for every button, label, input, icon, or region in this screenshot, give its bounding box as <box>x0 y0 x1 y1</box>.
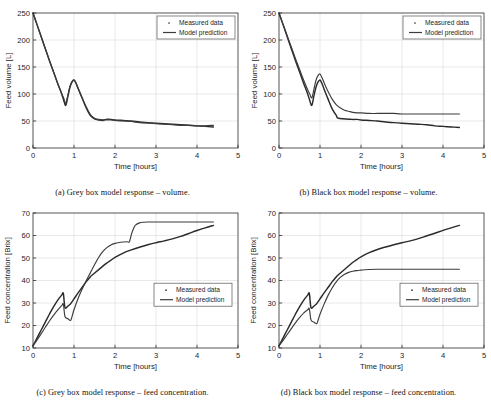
dot-marker-icon <box>411 289 413 291</box>
y-axis-label: Feed concentration [Brix] <box>249 237 258 324</box>
chart-c: 01234510203040506070Time [hours]Feed con… <box>0 200 245 380</box>
xtick-label: 4 <box>441 351 445 360</box>
ytick-label: 20 <box>22 321 30 330</box>
ytick-label: 0 <box>26 144 30 153</box>
ytick-label: 100 <box>263 90 276 99</box>
legend-label-measured: Measured data <box>179 19 223 26</box>
ytick-label: 50 <box>268 254 276 263</box>
dot-marker-icon <box>165 289 167 291</box>
xtick-label: 4 <box>195 351 199 360</box>
panel-b: 012345050100150200250Time [hours]Feed vo… <box>246 0 491 200</box>
caption-a: (a) Grey box model response – volume. <box>0 187 245 198</box>
ytick-label: 50 <box>268 117 276 126</box>
caption-b: (b) Black box model response – volume. <box>246 187 491 198</box>
xtick-label: 0 <box>277 351 281 360</box>
xtick-label: 1 <box>318 351 322 360</box>
ytick-label: 10 <box>22 344 30 353</box>
legend: Measured dataModel prediction <box>403 16 481 39</box>
legend-label-measured: Measured data <box>176 286 220 293</box>
xtick-label: 3 <box>400 151 404 160</box>
xtick-label: 2 <box>113 151 117 160</box>
ytick-label: 40 <box>22 276 30 285</box>
xtick-label: 0 <box>31 151 35 160</box>
legend-label-prediction: Model prediction <box>422 296 471 304</box>
panel-a: 012345050100150200250Time [hours]Feed vo… <box>0 0 245 200</box>
ytick-label: 250 <box>263 9 276 18</box>
legend: Measured dataModel prediction <box>157 16 235 39</box>
xtick-label: 3 <box>400 351 404 360</box>
xtick-label: 0 <box>31 351 35 360</box>
gridlines <box>279 213 484 348</box>
xtick-label: 5 <box>482 351 486 360</box>
legend-label-prediction: Model prediction <box>179 29 228 37</box>
ytick-label: 20 <box>268 321 276 330</box>
figure-container: 012345050100150200250Time [hours]Feed vo… <box>0 0 491 400</box>
ytick-label: 200 <box>17 36 30 45</box>
ytick-label: 60 <box>268 231 276 240</box>
plot-c: 01234510203040506070Time [hours]Feed con… <box>0 200 245 380</box>
caption-c: (c) Grey box model response – feed conce… <box>0 387 245 398</box>
panel-d: 01234510203040506070Time [hours]Feed con… <box>246 200 491 400</box>
ytick-label: 250 <box>17 9 30 18</box>
y-axis-label: Feed concentration [Brix] <box>3 237 12 324</box>
plot-b: 012345050100150200250Time [hours]Feed vo… <box>246 0 491 180</box>
ytick-label: 150 <box>17 63 30 72</box>
chart-b: 012345050100150200250Time [hours]Feed vo… <box>246 0 491 180</box>
xtick-label: 5 <box>482 151 486 160</box>
xtick-label: 2 <box>113 351 117 360</box>
chart-d: 01234510203040506070Time [hours]Feed con… <box>246 200 491 380</box>
xtick-label: 3 <box>154 151 158 160</box>
xtick-label: 2 <box>359 151 363 160</box>
ytick-label: 30 <box>268 299 276 308</box>
plot-a: 012345050100150200250Time [hours]Feed vo… <box>0 0 245 180</box>
ytick-label: 50 <box>22 117 30 126</box>
legend-label-prediction: Model prediction <box>425 29 474 37</box>
xtick-label: 1 <box>72 151 76 160</box>
xtick-label: 4 <box>441 151 445 160</box>
x-axis-label: Time [hours] <box>114 362 157 371</box>
ytick-label: 60 <box>22 231 30 240</box>
xtick-label: 4 <box>195 151 199 160</box>
plot-d: 01234510203040506070Time [hours]Feed con… <box>246 200 491 380</box>
x-axis-label: Time [hours] <box>114 162 157 171</box>
ytick-label: 50 <box>22 254 30 263</box>
ytick-label: 70 <box>22 209 30 218</box>
legend-label-measured: Measured data <box>422 286 466 293</box>
caption-d: (d) Black box model response – feed conc… <box>246 387 491 398</box>
y-axis-label: Feed volume [L] <box>250 53 259 109</box>
ytick-label: 150 <box>263 63 276 72</box>
xtick-label: 5 <box>236 151 240 160</box>
x-axis-label: Time [hours] <box>360 362 403 371</box>
legend: Measured dataModel prediction <box>154 283 232 306</box>
dot-marker-icon <box>414 22 416 24</box>
ytick-label: 200 <box>263 36 276 45</box>
chart-a: 012345050100150200250Time [hours]Feed vo… <box>0 0 245 180</box>
ytick-label: 10 <box>268 344 276 353</box>
xtick-label: 0 <box>277 151 281 160</box>
ytick-label: 40 <box>268 276 276 285</box>
ytick-label: 0 <box>272 144 276 153</box>
gridlines <box>33 213 238 348</box>
dot-marker-icon <box>168 22 170 24</box>
ytick-label: 70 <box>268 209 276 218</box>
legend-label-measured: Measured data <box>425 19 469 26</box>
y-axis-label: Feed volume [L] <box>4 53 13 109</box>
xtick-label: 5 <box>236 351 240 360</box>
xtick-label: 1 <box>72 351 76 360</box>
ytick-label: 100 <box>17 90 30 99</box>
x-axis-label: Time [hours] <box>360 162 403 171</box>
xtick-label: 3 <box>154 351 158 360</box>
xtick-label: 2 <box>359 351 363 360</box>
legend-label-prediction: Model prediction <box>176 296 225 304</box>
ytick-label: 30 <box>22 299 30 308</box>
legend: Measured dataModel prediction <box>400 283 478 306</box>
xtick-label: 1 <box>318 151 322 160</box>
panel-c: 01234510203040506070Time [hours]Feed con… <box>0 200 245 400</box>
